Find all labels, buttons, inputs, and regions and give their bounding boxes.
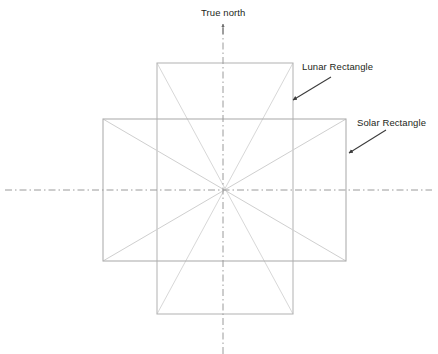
lunar-callout-arrow-icon (293, 77, 331, 100)
lunar-rectangle-group (157, 63, 293, 314)
axes-group (5, 24, 432, 354)
solar-rectangle-label: Solar Rectangle (357, 117, 426, 129)
solar-callout-arrow-icon (349, 130, 386, 153)
diagram-graphics (0, 0, 438, 354)
true-north-label: True north (201, 7, 245, 19)
diagram-canvas: True north Lunar Rectangle Solar Rectang… (0, 0, 438, 354)
lunar-rectangle-label: Lunar Rectangle (302, 61, 373, 73)
